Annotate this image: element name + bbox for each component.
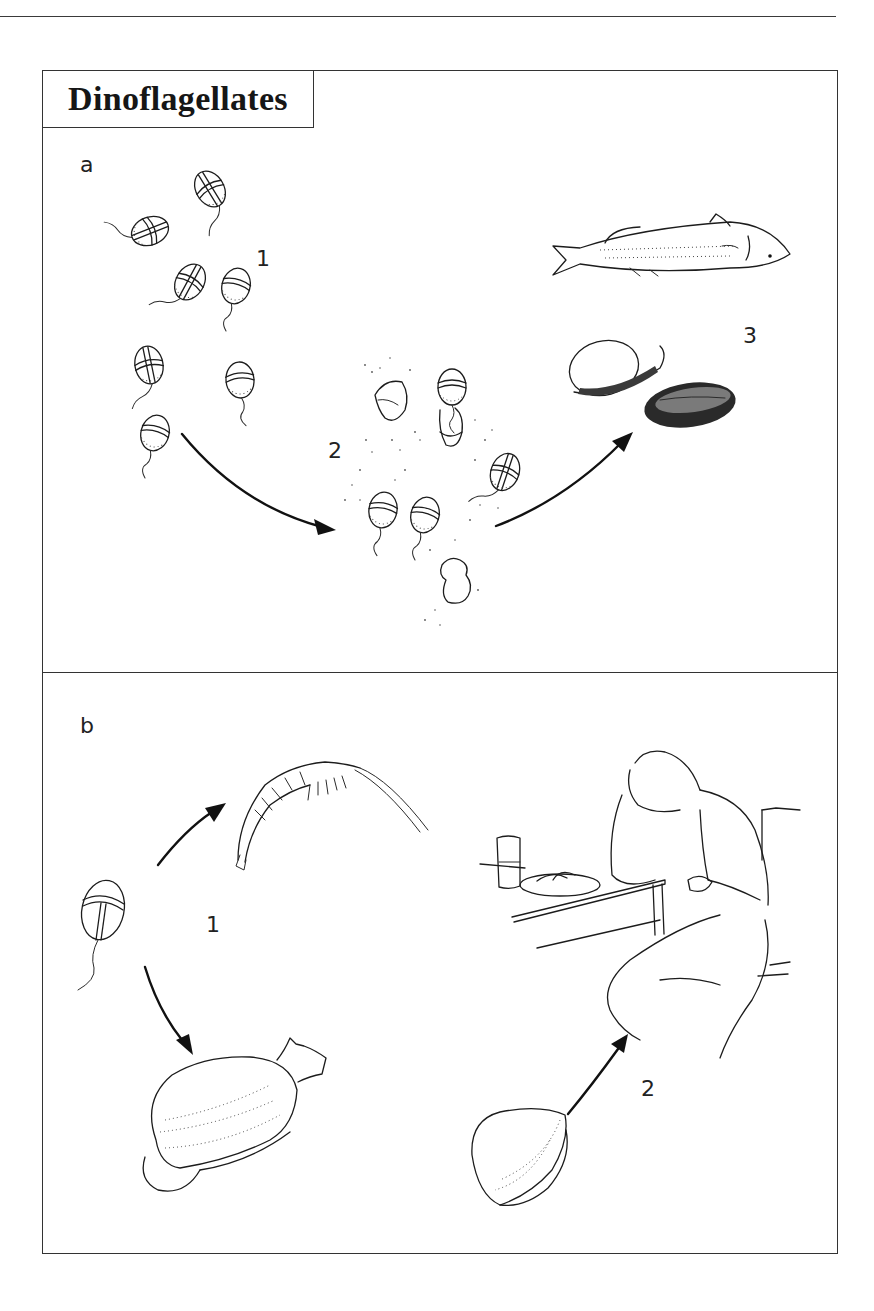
eaten-clam-icon <box>472 1109 567 1206</box>
contaminated-shellfish-icon <box>563 333 738 433</box>
arrow-b-to-shellfish-icon <box>145 967 193 1055</box>
clam-icon <box>143 1038 326 1191</box>
dead-fish-icon <box>553 214 790 276</box>
arrow-b-shellfish-to-person-icon <box>568 1034 628 1114</box>
sick-person-icon <box>480 751 800 1058</box>
arrow-b-to-zooplankton-icon <box>158 803 226 865</box>
zooplankton-shrimp-icon <box>236 762 428 870</box>
arrow-a-1-to-2-icon <box>182 434 336 535</box>
dinoflagellate-icon <box>76 876 130 990</box>
dinoflagellate-bloom-group-2 <box>344 357 525 626</box>
figure-illustrations <box>0 0 874 1311</box>
